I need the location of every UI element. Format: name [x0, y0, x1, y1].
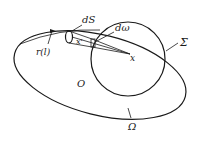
label-ds: dS [82, 14, 95, 25]
sphere-sigma-circle [91, 22, 165, 96]
omega-leader-line [128, 108, 131, 118]
label-x: x [130, 53, 135, 63]
curve-arrowhead-icon [50, 29, 56, 33]
surface-element-ds [66, 31, 73, 43]
label-curve-r-l: r(l) [36, 47, 51, 57]
region-omega-ellipse [5, 15, 195, 135]
label-omega: Ω [127, 121, 136, 132]
diagram: dS dω x' x Σ Ω O r(l) [0, 0, 200, 142]
label-sigma: Σ [179, 36, 188, 49]
label-origin: O [77, 78, 85, 89]
label-x-prime: x' [76, 37, 83, 46]
sigma-leader-line [166, 43, 178, 51]
cone-line-top [92, 39, 130, 54]
label-d-omega: dω [115, 22, 130, 33]
